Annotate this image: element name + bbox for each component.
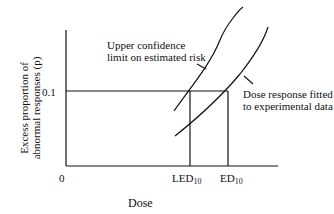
y-tick-0.1: 0.1	[42, 86, 56, 98]
dose-response-pointer	[244, 76, 253, 84]
y-axis-label-line2: abnormal responses (p)	[30, 38, 42, 178]
dose-response-annotation: Dose response fitted to experimental dat…	[243, 88, 333, 112]
dose-response-diagram: Excess proportion of abnormal responses …	[0, 0, 334, 214]
x-tick-led10: LED10	[172, 172, 201, 188]
x-axis-label: Dose	[128, 197, 153, 209]
upper-confidence-annotation: Upper confidence limit on estimated risk	[107, 39, 206, 63]
y-axis-label: Excess proportion of abnormal responses …	[18, 38, 42, 178]
upper-confidence-pointer	[197, 64, 206, 69]
origin-label: 0	[59, 172, 65, 184]
y-axis-label-line1: Excess proportion of	[18, 38, 30, 178]
x-tick-ed10: ED10	[220, 172, 243, 188]
